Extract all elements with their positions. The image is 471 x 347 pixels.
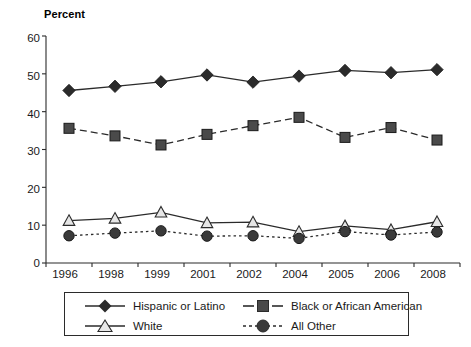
data-point <box>248 121 258 131</box>
data-point <box>294 112 304 122</box>
data-point <box>110 131 120 141</box>
data-point <box>155 76 167 88</box>
data-point <box>201 69 213 81</box>
data-point <box>247 76 259 88</box>
data-point <box>431 63 443 75</box>
data-point <box>109 80 121 92</box>
legend-label-hispanic-or-latino: Hispanic or Latino <box>133 300 225 312</box>
data-point <box>202 231 212 241</box>
data-point <box>386 230 396 240</box>
data-point <box>155 207 167 218</box>
chart-container: Percent 60 50 40 30 20 10 0 1996 1998 19… <box>0 0 471 347</box>
legend-item-hispanic-or-latino[interactable]: Hispanic or Latino <box>83 297 225 315</box>
data-point <box>385 66 397 78</box>
data-point <box>340 226 350 236</box>
series-black-or-african-american <box>64 112 442 150</box>
data-point <box>63 84 75 96</box>
data-point <box>248 231 258 241</box>
series-hispanic-or-latino <box>63 63 443 96</box>
legend-marker-filled-square-icon <box>241 298 285 314</box>
series-all-other <box>64 226 442 244</box>
y-axis-ticks <box>42 36 46 263</box>
legend-item-all-other[interactable]: All Other <box>241 317 336 335</box>
legend: Hispanic or Latino Black or African Amer… <box>64 292 409 336</box>
legend-label-all-other: All Other <box>291 320 336 332</box>
legend-marker-open-triangle-icon <box>83 318 127 334</box>
legend-marker-filled-diamond-icon <box>83 298 127 314</box>
data-point <box>64 123 74 133</box>
data-point <box>432 227 442 237</box>
data-point <box>432 135 442 145</box>
data-point <box>64 231 74 241</box>
data-point <box>340 132 350 142</box>
legend-item-white[interactable]: White <box>83 317 162 335</box>
data-point <box>431 216 443 227</box>
data-point <box>293 70 305 82</box>
data-point <box>386 123 396 133</box>
data-point <box>110 228 120 238</box>
data-point <box>339 64 351 76</box>
data-point <box>156 226 166 236</box>
data-point <box>202 129 212 139</box>
x-axis-ticks <box>46 263 460 267</box>
data-point <box>156 140 166 150</box>
legend-item-black-or-african-american[interactable]: Black or African American <box>241 297 422 315</box>
legend-label-white: White <box>133 320 162 332</box>
legend-label-black-or-african-american: Black or African American <box>291 300 422 312</box>
series-layer <box>63 63 443 243</box>
data-point <box>294 233 304 243</box>
legend-marker-filled-circle-icon <box>241 318 285 334</box>
